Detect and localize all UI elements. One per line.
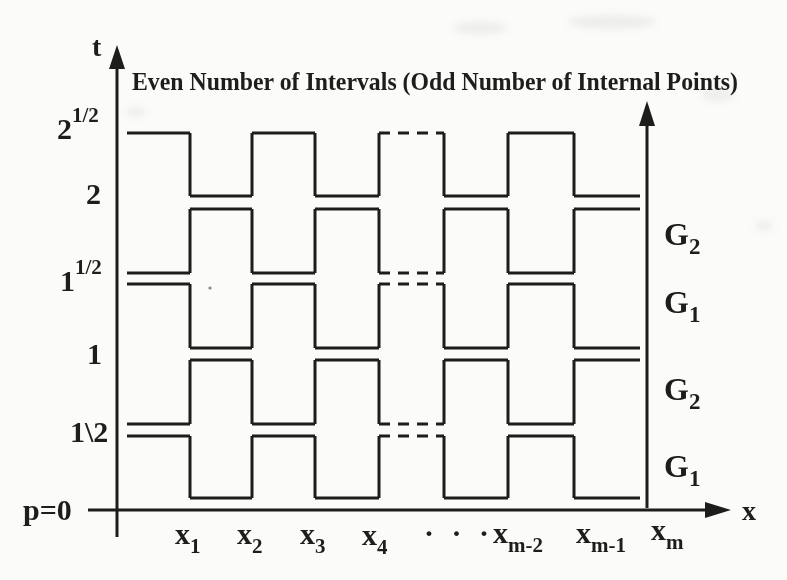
group-label-g2-lower: G2 xyxy=(664,371,700,414)
t-tick-labels: 21/2 2 11/2 1 1\2 p=0 xyxy=(23,103,108,526)
t-tick-label-1half: 11/2 xyxy=(60,255,102,297)
x-axis-arrowhead-icon xyxy=(705,502,731,518)
group-label-sub: 2 xyxy=(689,234,701,259)
t-axis xyxy=(109,45,125,537)
x-axis xyxy=(88,502,731,518)
group-label-g2-top: G2 xyxy=(664,216,700,259)
x-tick-label-2: x2 xyxy=(237,517,263,558)
wave-band-path xyxy=(127,133,640,196)
x-tick-sub: 2 xyxy=(252,534,263,558)
x-tick-base: x xyxy=(175,517,190,550)
t-tick-base: 2 xyxy=(86,177,101,210)
x-tick-label-4: x4 xyxy=(362,518,388,559)
group-label-sub: 1 xyxy=(689,302,701,327)
x-tick-label-m-2: xm-2 xyxy=(493,516,543,557)
x-tick-base: x xyxy=(576,516,591,549)
x-tick-sub: m-2 xyxy=(508,533,543,557)
group-label-base: G xyxy=(664,371,689,407)
ink-speck xyxy=(208,286,211,289)
t-tick-base: 2 xyxy=(57,112,72,145)
x-tick-sub: m xyxy=(666,530,684,554)
group-label-base: G xyxy=(664,448,689,484)
group-label-sub: 1 xyxy=(689,466,701,491)
square-waves xyxy=(127,133,640,498)
t-axis-arrowhead-icon xyxy=(109,45,125,69)
group-label-base: G xyxy=(664,284,689,320)
scan-noise xyxy=(126,15,773,231)
x-tick-label-3: x3 xyxy=(300,517,326,558)
figure-title: Even Number of Intervals (Odd Number of … xyxy=(132,67,738,96)
right-axis xyxy=(639,101,655,508)
t-tick-label-2: 2 xyxy=(86,177,101,210)
group-label-base: G xyxy=(664,216,689,252)
t-tick-base: 1 xyxy=(60,264,75,297)
x-tick-labels: x1 x2 x3 x4 · · · xm-2 xm-1 xm xyxy=(175,513,684,559)
t-tick-label-1: 1 xyxy=(87,337,102,370)
x-tick-base: x xyxy=(237,517,252,550)
x-axis-label: x xyxy=(742,495,756,526)
right-axis-arrowhead-icon xyxy=(639,101,655,126)
scanned-figure: Even Number of Intervals (Odd Number of … xyxy=(0,0,787,580)
x-tick-sub: 4 xyxy=(377,535,388,559)
origin-label: p=0 xyxy=(23,493,72,526)
x-tick-sub: 1 xyxy=(190,534,201,558)
group-label-sub: 2 xyxy=(689,389,701,414)
group-labels: G2 G1 G2 G1 xyxy=(664,216,700,491)
t-tick-sup: 1/2 xyxy=(72,103,99,127)
group-label-g1-upper: G1 xyxy=(664,284,700,327)
group-label-g1-bottom: G1 xyxy=(664,448,700,491)
x-tick-base: x xyxy=(300,517,315,550)
x-tick-label-m-1: xm-1 xyxy=(576,516,626,557)
x-tick-label-m: xm xyxy=(651,513,684,554)
x-tick-base: x xyxy=(493,516,508,549)
wave-band-path xyxy=(127,436,640,498)
x-tick-sub: 3 xyxy=(315,534,326,558)
x-tick-sub: m-1 xyxy=(591,533,626,557)
wave-band-path xyxy=(127,209,640,273)
t-tick-label-2half: 21/2 xyxy=(57,103,99,145)
x-tick-base: x xyxy=(651,513,666,546)
x-tick-base: x xyxy=(362,518,377,551)
t-axis-label: t xyxy=(92,31,102,62)
t-tick-base: 1 xyxy=(87,337,102,370)
wave-band-path xyxy=(127,284,640,348)
t-tick-label-half: 1\2 xyxy=(70,415,108,448)
x-ellipsis-label: · · · xyxy=(424,516,494,549)
t-tick-sup: 1/2 xyxy=(75,255,102,279)
wave-band-path xyxy=(127,360,640,424)
t-tick-base: 1\2 xyxy=(70,415,108,448)
x-tick-label-1: x1 xyxy=(175,517,201,558)
figure-canvas: Even Number of Intervals (Odd Number of … xyxy=(0,0,787,580)
